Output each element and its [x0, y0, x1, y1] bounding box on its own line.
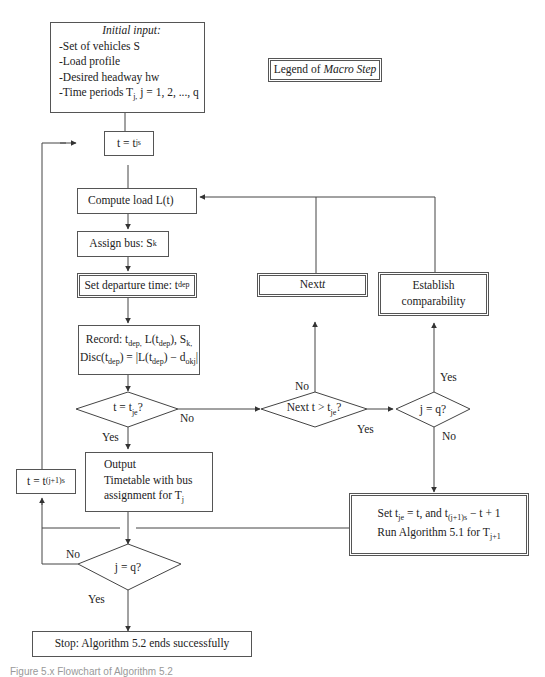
record-line-2: Disc(tdep) = |L(tdep) − dokj| [80, 350, 198, 368]
next-t-box: Next t [257, 273, 368, 297]
edge-label-yes-4: Yes [88, 593, 105, 605]
record-box: Record: tdep, L(tdep), Sk, Disc(tdep) = … [78, 325, 200, 375]
decision-next-t: Next t > tje? [287, 401, 342, 416]
edge-label-no-3: No [442, 430, 456, 442]
record-line-1: Record: tdep, L(tdep), Sk, [86, 332, 193, 350]
initial-input-box: Initial input: -Set of vehicles S -Load … [50, 22, 205, 113]
t-next-period-box: t = t(j+1)s [16, 469, 76, 494]
initial-input-title: Initial input: [102, 23, 160, 39]
input-item-vehicles: -Set of vehicles S [59, 39, 140, 55]
figure-caption: Figure 5.x Flowchart of Algorithm 5.2 [10, 666, 173, 677]
compute-load-box: Compute load L(t) [77, 188, 197, 214]
set-tje-run-algorithm-box: Set tje = t, and t(j+1)s − t + 1 Run Alg… [349, 493, 529, 556]
edge-label-no-2: No [295, 380, 309, 392]
legend-macro-step: Legend of Macro Step [268, 58, 382, 82]
set-departure-time-box: Set departure time: tdep [77, 273, 197, 298]
decision-j-equals-q-right: j = q? [420, 403, 446, 415]
assign-bus-box: Assign bus: Sk [77, 231, 169, 257]
edge-label-yes-1: Yes [102, 431, 119, 443]
edge-label-no-4: No [66, 548, 80, 560]
input-item-load-profile: -Load profile [59, 54, 120, 70]
decision-j-equals-q-bottom: j = q? [115, 561, 141, 573]
establish-comparability-box: Establish comparability [378, 272, 489, 316]
input-item-headway: -Desired headway hw [59, 70, 159, 86]
decision-t-equals-tje: t = tje? [113, 401, 143, 416]
stop-box: Stop: Algorithm 5.2 ends successfully [32, 631, 252, 657]
init-t-js-box: t = tjs [104, 131, 154, 156]
edge-label-yes-3: Yes [440, 371, 457, 383]
edge-label-yes-2: Yes [357, 423, 374, 435]
edge-label-no-1: No [180, 412, 194, 424]
output-box: Output Timetable with bus assignment for… [85, 452, 213, 512]
input-item-time-periods: -Time periods Tj, j = 1, 2, ..., q [59, 85, 199, 103]
